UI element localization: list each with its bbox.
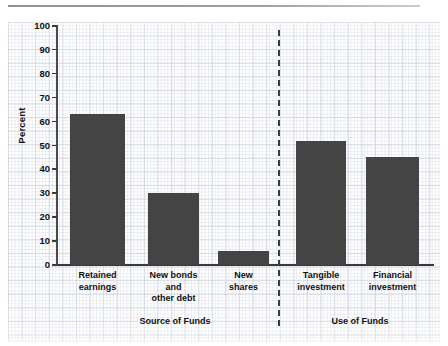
category-label-line: shares <box>199 282 289 294</box>
y-axis-tick-label: 30 <box>24 188 50 198</box>
category-label-line: investment <box>348 282 438 294</box>
category-label-line: Financial <box>348 270 438 282</box>
y-axis-tick-label: 70 <box>24 93 50 103</box>
y-axis-tick-mark <box>52 97 57 99</box>
group-label-use-of-funds: Use of Funds <box>300 316 420 326</box>
group-divider-dashed-line <box>278 30 280 326</box>
y-axis-tick-mark <box>52 25 57 27</box>
y-axis-tick-mark <box>52 216 57 218</box>
y-axis-tick-mark <box>52 121 57 123</box>
y-axis-tick-label: 20 <box>24 212 50 222</box>
top-rule-divider <box>8 5 420 7</box>
category-label-line: other debt <box>129 293 219 305</box>
bar <box>218 251 269 265</box>
y-axis-tick-label: 60 <box>24 117 50 127</box>
y-axis-tick-label: 100 <box>24 21 50 31</box>
y-axis-tick-label: 50 <box>24 141 50 151</box>
bar <box>296 141 346 265</box>
y-axis-tick-label: 90 <box>24 45 50 55</box>
category-label-line: New <box>199 270 289 282</box>
bar <box>70 114 125 265</box>
y-axis-tick-mark <box>52 168 57 170</box>
y-axis-tick-mark <box>52 192 57 194</box>
chart-figure: Percent 1009080706050403020100 Retainede… <box>0 0 448 346</box>
y-axis-tick-mark <box>52 264 57 266</box>
y-axis-tick-mark <box>52 49 57 51</box>
group-label-source-of-funds: Source of Funds <box>110 316 240 326</box>
y-axis-tick-label: 0 <box>24 260 50 270</box>
y-axis-tick-label: 80 <box>24 69 50 79</box>
y-axis-tick-mark <box>52 240 57 242</box>
category-label: Financialinvestment <box>348 270 438 293</box>
y-axis-tick-mark <box>52 145 57 147</box>
y-axis-tick-label: 40 <box>24 164 50 174</box>
category-label: Newshares <box>199 270 289 293</box>
y-axis-tick-label: 10 <box>24 236 50 246</box>
y-axis-tick-mark <box>52 73 57 75</box>
bar <box>148 193 199 265</box>
bar <box>366 157 419 265</box>
